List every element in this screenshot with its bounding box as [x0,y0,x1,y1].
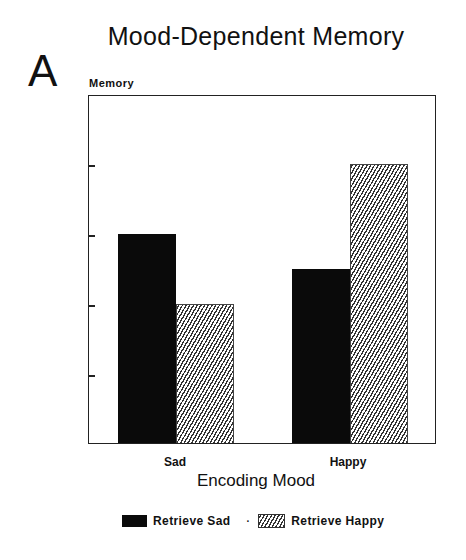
legend-label: Retrieve Sad [153,514,231,528]
y-tick [89,305,95,307]
bar-happy-retrieve-happy [350,164,408,443]
bar-happy-retrieve-sad [292,269,350,443]
bar-sad-retrieve-sad [118,234,176,443]
x-tick-label-sad: Sad [135,455,215,469]
bar-sad-retrieve-happy [176,304,234,443]
plot-area [88,95,436,444]
legend: Retrieve Sad · Retrieve Happy [122,514,384,528]
y-tick [89,375,95,377]
y-tick [89,165,95,167]
y-axis-label: Memory [89,77,134,89]
x-tick-label-happy: Happy [308,455,388,469]
panel-label: A [28,46,57,96]
legend-swatch-solid [122,515,147,527]
legend-label: Retrieve Happy [291,514,384,528]
legend-swatch-hatch [258,514,285,528]
y-tick [89,235,95,237]
chart-title: Mood-Dependent Memory [0,22,466,51]
x-axis-label: Encoding Mood [0,471,466,491]
legend-separator: · [247,516,251,527]
